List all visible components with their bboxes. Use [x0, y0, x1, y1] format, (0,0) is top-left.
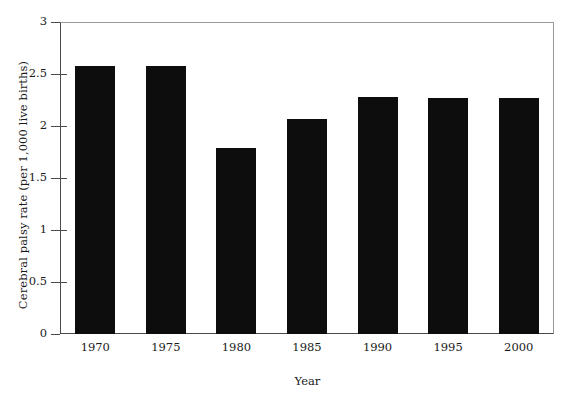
y-tick-1: 1 — [0, 230, 60, 231]
y-tick-label: 3 — [40, 14, 47, 28]
y-tick-mark — [51, 178, 60, 179]
y-tick-mark — [51, 22, 60, 23]
x-tick-label-1980: 1980 — [201, 340, 272, 354]
bar-2000[interactable] — [499, 98, 539, 334]
y-tick-mark — [51, 126, 60, 127]
y-tick-3: 3 — [0, 22, 60, 23]
bar-1990[interactable] — [358, 97, 398, 334]
y-tick-label: 1.5 — [29, 170, 47, 184]
x-tick-label-1990: 1990 — [342, 340, 413, 354]
bar-1975[interactable] — [146, 66, 186, 334]
y-tick-mark-inner — [60, 178, 67, 179]
x-tick-label-1970: 1970 — [60, 340, 131, 354]
y-tick-label: 2 — [40, 118, 47, 132]
y-tick-1.5: 1.5 — [0, 178, 60, 179]
y-tick-mark-inner — [60, 74, 67, 75]
y-tick-0: 0 — [0, 334, 60, 335]
bar-1995[interactable] — [428, 98, 468, 334]
y-tick-mark — [51, 74, 60, 75]
y-tick-0.5: 0.5 — [0, 282, 60, 283]
bar-1985[interactable] — [287, 119, 327, 334]
y-tick-mark-inner — [60, 282, 67, 283]
y-tick-label: 0 — [40, 326, 47, 340]
cerebral-palsy-rate-bar-chart: Cerebral palsy rate (per 1,000 live birt… — [0, 0, 570, 401]
y-tick-label: 0.5 — [29, 274, 47, 288]
bar-1970[interactable] — [75, 66, 115, 334]
y-tick-mark — [51, 334, 60, 335]
x-tick-label-1975: 1975 — [131, 340, 202, 354]
y-tick-label: 1 — [40, 222, 47, 236]
y-tick-label: 2.5 — [29, 66, 47, 80]
y-tick-2: 2 — [0, 126, 60, 127]
x-tick-label-1985: 1985 — [272, 340, 343, 354]
x-tick-label-1995: 1995 — [413, 340, 484, 354]
y-tick-mark — [51, 230, 60, 231]
bar-1980[interactable] — [216, 148, 256, 334]
x-axis-title: Year — [60, 374, 555, 388]
y-tick-2.5: 2.5 — [0, 74, 60, 75]
x-tick-label-2000: 2000 — [483, 340, 554, 354]
y-tick-mark-inner — [60, 126, 67, 127]
y-tick-mark — [51, 282, 60, 283]
y-tick-mark-inner — [60, 230, 67, 231]
